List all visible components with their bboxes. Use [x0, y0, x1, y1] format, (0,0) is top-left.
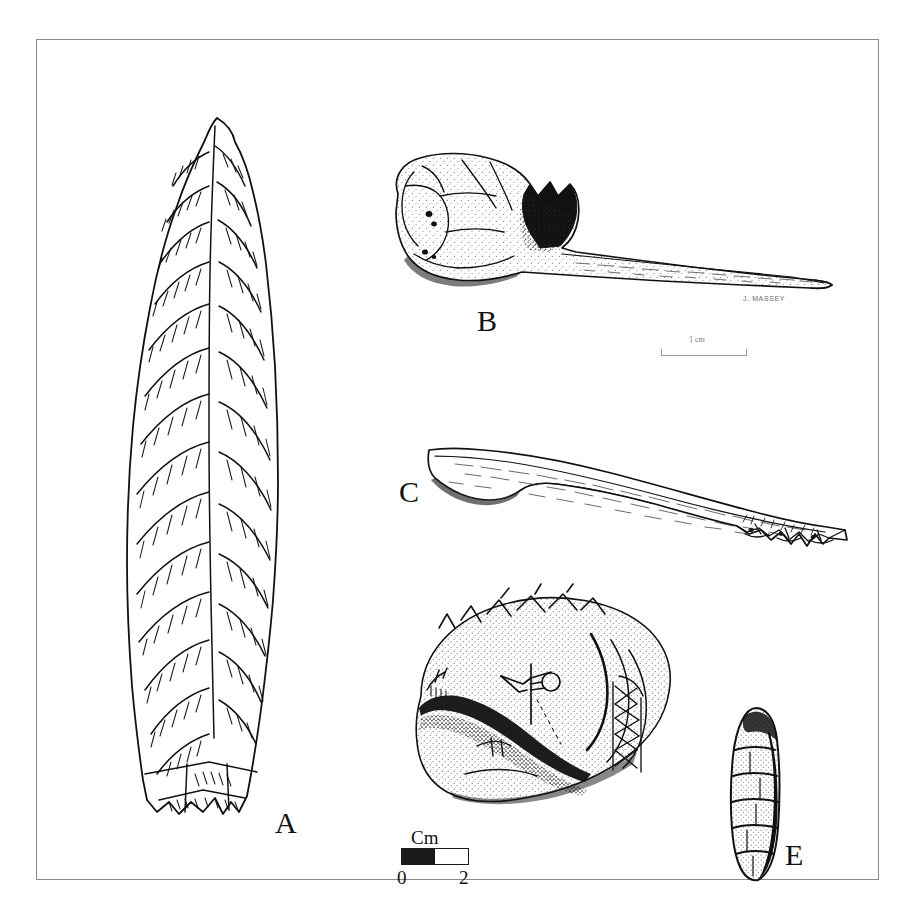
- scale-bar-b-rule: [661, 349, 747, 356]
- illustrator-credit: J. MASSEY: [743, 295, 785, 302]
- scale-bar-graphic: [401, 848, 469, 865]
- scale-bar-tick-start: 0: [397, 868, 407, 887]
- scale-bar-segment-filled: [402, 849, 435, 864]
- scale-bar-tick-end: 2: [459, 868, 469, 887]
- scale-bar-specimen-b: 1 cm: [661, 336, 753, 358]
- specimen-a-projectile-point: [99, 112, 319, 842]
- scale-bar-b-caption: 1 cm: [689, 336, 705, 344]
- plate-label-c: C: [399, 477, 419, 507]
- scale-bar: Cm 0 2: [397, 828, 507, 890]
- specimen-c-bone-point: [425, 434, 857, 570]
- specimen-e-tubular-bead: [725, 704, 787, 886]
- plate-label-b: B: [477, 306, 497, 336]
- plate-label-e: E: [785, 840, 803, 870]
- plate-label-a: A: [275, 808, 297, 838]
- scale-bar-unit-label: Cm: [411, 828, 438, 847]
- scale-bar-segment-empty: [435, 849, 468, 864]
- specimen-b-bone-awl: [362, 136, 842, 306]
- specimen-d-engraved-shell-gorget: [405, 578, 689, 822]
- figure-frame-border: A B C E J. MASSEY 1 cm Cm 0 2: [36, 39, 879, 880]
- artifact-plate: A B C E J. MASSEY 1 cm Cm 0 2: [0, 0, 914, 905]
